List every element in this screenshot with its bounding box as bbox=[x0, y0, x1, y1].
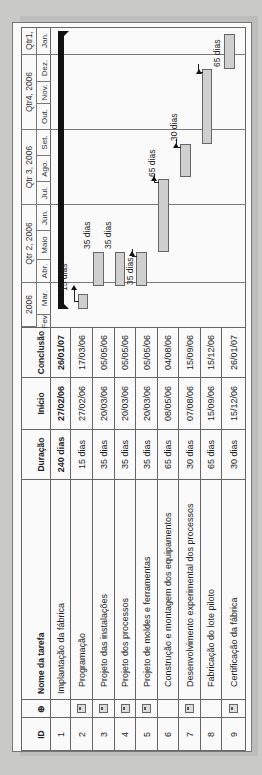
month-mar: Mar. bbox=[36, 283, 51, 315]
note-icon[interactable] bbox=[229, 704, 238, 713]
row-9-indicator bbox=[222, 699, 246, 717]
arrow-head bbox=[129, 251, 135, 256]
gantt-table: ID ⊕ Nome da tarefa Duração Início Concl… bbox=[21, 27, 246, 751]
task-bar-6[interactable] bbox=[158, 179, 169, 252]
row-5-duration: 35 dias bbox=[136, 429, 158, 479]
row-3-duration: 35 dias bbox=[93, 429, 115, 479]
row-2-start: 27/02/06 bbox=[71, 377, 93, 429]
gridline-q4 bbox=[51, 129, 246, 130]
row-7-finish: 15/09/06 bbox=[179, 327, 201, 377]
row-8-duration: 65 dias bbox=[201, 429, 222, 479]
header-start: Início bbox=[21, 377, 51, 429]
row-3-start: 20/03/06 bbox=[93, 377, 115, 429]
row-4-start: 20/03/06 bbox=[115, 377, 136, 429]
gantt-chart: 2006 Qtr 2, 2006 Qtr 3, 2006 Qtr4, 2006 … bbox=[21, 27, 246, 327]
row-1-duration: 240 dias bbox=[51, 429, 71, 479]
task-bar-7[interactable] bbox=[180, 144, 191, 177]
row-4-task-name[interactable]: Projeto dos processos bbox=[115, 479, 136, 699]
note-icon[interactable] bbox=[185, 704, 194, 713]
row-7-start: 07/08/06 bbox=[179, 377, 201, 429]
row-1-finish: 26/01/07 bbox=[51, 327, 71, 377]
header-duration: Duração bbox=[21, 429, 51, 479]
row-5-id: 5 bbox=[136, 717, 158, 751]
row-1-task-name[interactable]: Implantação da fábrica bbox=[51, 479, 71, 699]
quarter-q1-2007: Qtr1, bbox=[21, 27, 36, 55]
header-indicator-icon: ⊕ bbox=[21, 699, 51, 717]
quarter-q2-2006: Qtr 2, 2006 bbox=[21, 205, 36, 283]
chart-right-border bbox=[21, 27, 246, 28]
row-1-start: 27/02/06 bbox=[51, 377, 71, 429]
row-9-task-name[interactable]: Certificação da fábrica bbox=[222, 479, 246, 699]
row-6-id: 6 bbox=[158, 717, 179, 751]
row-1-id: 1 bbox=[51, 717, 71, 751]
row-9-finish: 26/01/07 bbox=[222, 327, 246, 377]
summary-cap-start bbox=[64, 304, 69, 309]
row-7-task-name[interactable]: Desenvolvimento experimental dos process… bbox=[179, 479, 201, 699]
row-6-indicator bbox=[158, 699, 179, 717]
row-2-duration: 15 dias bbox=[71, 429, 93, 479]
month-out: Out. bbox=[36, 104, 51, 130]
bar-label-5: 35 dias bbox=[125, 258, 135, 285]
row-7-duration: 30 dias bbox=[179, 429, 201, 479]
summary-cap-end bbox=[64, 31, 69, 36]
row-8-indicator bbox=[201, 699, 222, 717]
bar-label-8: 65 dias bbox=[212, 40, 222, 67]
month-jul: Jul. bbox=[36, 182, 51, 205]
month-ago: Ago. bbox=[36, 156, 51, 182]
row-4-finish: 05/05/06 bbox=[115, 327, 136, 377]
note-icon[interactable] bbox=[121, 704, 130, 713]
row-8-id: 8 bbox=[201, 717, 222, 751]
month-abr: Abr. bbox=[36, 260, 51, 283]
arrow-head bbox=[151, 176, 157, 181]
bar-label-4: 35 dias bbox=[103, 222, 113, 249]
note-icon[interactable] bbox=[142, 704, 151, 713]
month-jan: Jan. bbox=[36, 27, 51, 55]
note-icon[interactable] bbox=[99, 704, 108, 713]
bar-label-7: 30 dias bbox=[169, 114, 179, 141]
row-2-task-name[interactable]: Programação bbox=[71, 479, 93, 699]
task-bar-9[interactable] bbox=[224, 34, 235, 69]
row-6-task-name[interactable]: Construção e montagem dos equipamentos bbox=[158, 479, 179, 699]
row-3-indicator bbox=[93, 699, 115, 717]
row-9-id: 9 bbox=[222, 717, 246, 751]
arrow-head bbox=[71, 285, 77, 290]
row-4-duration: 35 dias bbox=[115, 429, 136, 479]
month-jun: Jun. bbox=[36, 205, 51, 231]
header-finish: Conclusão bbox=[21, 327, 51, 377]
row-4-indicator bbox=[115, 699, 136, 717]
row-3-finish: 05/05/06 bbox=[93, 327, 115, 377]
month-set: Set. bbox=[36, 130, 51, 156]
table-left-border bbox=[21, 750, 246, 751]
row-4-id: 4 bbox=[115, 717, 136, 751]
row-5-task-name[interactable]: Projeto de moldes e ferramentas bbox=[136, 479, 158, 699]
gridline-q3 bbox=[51, 204, 246, 205]
row-8-task-name[interactable]: Fabricação do lote piloto bbox=[201, 479, 222, 699]
row-3-id: 3 bbox=[93, 717, 115, 751]
row-5-start: 20/03/06 bbox=[136, 377, 158, 429]
arrow-head bbox=[196, 69, 202, 74]
task-bar-2[interactable] bbox=[78, 294, 88, 309]
row-8-finish: 15/12/06 bbox=[201, 327, 222, 377]
row-6-finish: 04/08/06 bbox=[158, 327, 179, 377]
bar-label-6: 65 dias bbox=[147, 150, 157, 177]
row-9-start: 15/12/06 bbox=[222, 377, 246, 429]
header-id: ID bbox=[21, 717, 51, 751]
row-5-finish: 05/05/06 bbox=[136, 327, 158, 377]
row-2-indicator bbox=[71, 699, 93, 717]
month-dez: Dez. bbox=[36, 55, 51, 82]
row-6-duration: 65 dias bbox=[158, 429, 179, 479]
quarter-q3-2006: Qtr 3, 2006 bbox=[21, 130, 36, 205]
row-5-indicator bbox=[136, 699, 158, 717]
task-bar-4[interactable] bbox=[115, 252, 125, 286]
note-icon[interactable] bbox=[77, 704, 86, 713]
arrow-head bbox=[173, 143, 179, 148]
quarter-q4-2006: Qtr4, 2006 bbox=[21, 55, 36, 130]
row-9-duration: 30 dias bbox=[222, 429, 246, 479]
task-bar-8[interactable] bbox=[202, 69, 212, 144]
row-7-id: 7 bbox=[179, 717, 201, 751]
row-1-indicator bbox=[51, 699, 71, 717]
task-bar-5[interactable] bbox=[136, 252, 147, 286]
row-3-task-name[interactable]: Projeto das instalações bbox=[93, 479, 115, 699]
month-maio: Maio bbox=[36, 231, 51, 260]
task-bar-3[interactable] bbox=[93, 252, 104, 286]
